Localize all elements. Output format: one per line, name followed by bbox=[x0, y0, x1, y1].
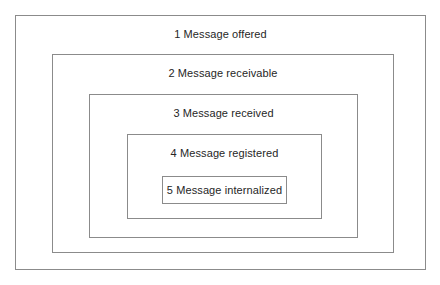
level-label-message-offered: 1 Message offered bbox=[16, 28, 425, 41]
level-label-message-internalized: 5 Message internalized bbox=[167, 184, 282, 197]
level-box-message-internalized: 5 Message internalized bbox=[162, 176, 287, 204]
nested-message-states-diagram: 1 Message offered 2 Message receivable 3… bbox=[0, 0, 440, 285]
level-box-message-receivable: 2 Message receivable 3 Message received … bbox=[52, 54, 394, 253]
level-label-message-received: 3 Message received bbox=[90, 107, 357, 120]
level-label-message-receivable: 2 Message receivable bbox=[53, 67, 393, 80]
level-box-message-offered: 1 Message offered 2 Message receivable 3… bbox=[15, 15, 426, 270]
level-label-message-registered: 4 Message registered bbox=[128, 147, 321, 160]
level-box-message-registered: 4 Message registered 5 Message internali… bbox=[127, 134, 322, 219]
level-box-message-received: 3 Message received 4 Message registered … bbox=[89, 94, 358, 238]
